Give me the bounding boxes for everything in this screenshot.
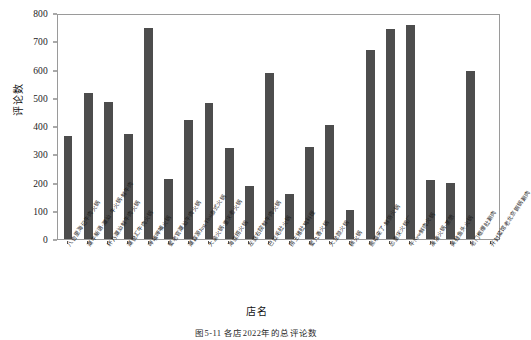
y-axis-tick-label: 300	[33, 150, 48, 160]
y-axis-tick-label: 500	[33, 94, 48, 104]
y-axis-title: 评论数	[10, 65, 25, 135]
bar	[245, 186, 254, 239]
bar	[366, 50, 375, 239]
bar	[466, 71, 475, 239]
y-axis-tick-label: 400	[33, 122, 48, 132]
y-axis-tick-label: 700	[33, 37, 48, 47]
bar	[64, 136, 73, 239]
x-axis-title: 店名	[0, 303, 513, 318]
y-axis-tick-label: 0	[43, 235, 48, 245]
figure-caption: 图5-11 各店2022年的总评论数	[0, 326, 513, 338]
y-axis-tick-label: 100	[33, 207, 48, 217]
bar	[446, 183, 455, 240]
bar	[164, 179, 173, 239]
y-axis-tick-label: 600	[33, 66, 48, 76]
bar	[406, 25, 415, 239]
bar	[144, 28, 153, 239]
y-axis-tick-label: 800	[33, 9, 48, 19]
y-axis-tick-label: 200	[33, 179, 48, 189]
